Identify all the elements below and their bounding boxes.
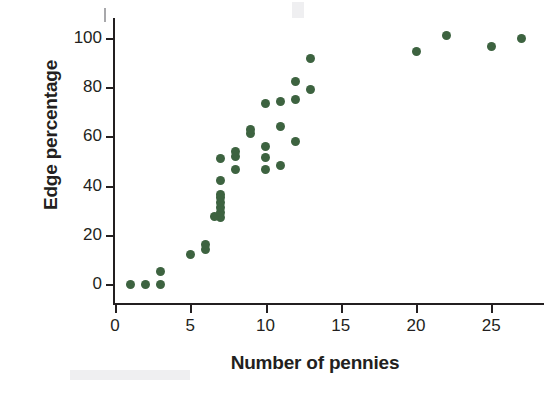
y-tick: [106, 38, 113, 40]
x-tick: [190, 305, 192, 313]
y-axis-line: [113, 18, 115, 304]
data-point: [291, 137, 300, 146]
data-point: [517, 34, 526, 43]
x-axis-line: [113, 303, 544, 305]
data-point: [291, 95, 300, 104]
y-tick-label: 100: [58, 28, 102, 48]
data-point: [216, 190, 225, 199]
data-point: [216, 154, 225, 163]
data-point: [442, 31, 451, 40]
y-tick-label: 80: [58, 77, 102, 97]
data-point: [156, 280, 165, 289]
scatter-chart: Edge percentage Number of pennies 020406…: [0, 0, 556, 395]
y-tick: [106, 87, 113, 89]
data-point: [261, 142, 270, 151]
x-tick-label: 10: [246, 316, 286, 336]
x-tick: [341, 305, 343, 313]
y-tick: [106, 235, 113, 237]
data-point: [487, 42, 496, 51]
plot-area: 020406080100 0510152025: [0, 0, 556, 395]
data-point: [276, 122, 285, 131]
data-point: [306, 54, 315, 63]
data-point: [291, 77, 300, 86]
y-tick: [106, 284, 113, 286]
x-tick: [266, 305, 268, 313]
data-point: [276, 97, 285, 106]
data-point: [261, 165, 270, 174]
data-point: [306, 85, 315, 94]
y-tick: [106, 186, 113, 188]
data-point: [261, 153, 270, 162]
data-point: [261, 99, 270, 108]
data-point: [246, 125, 255, 134]
data-point: [231, 165, 240, 174]
data-point: [276, 161, 285, 170]
y-tick: [106, 136, 113, 138]
y-tick-label: 0: [58, 274, 102, 294]
data-point: [216, 176, 225, 185]
x-tick-label: 25: [471, 316, 511, 336]
y-tick-label: 20: [58, 225, 102, 245]
data-point: [412, 47, 421, 56]
x-tick-label: 20: [396, 316, 436, 336]
y-tick-label: 40: [58, 176, 102, 196]
data-point: [141, 280, 150, 289]
data-point: [156, 267, 165, 276]
x-tick: [115, 305, 117, 313]
data-point: [186, 250, 195, 259]
x-tick-label: 0: [95, 316, 135, 336]
data-point: [201, 240, 210, 249]
x-tick: [491, 305, 493, 313]
x-tick: [416, 305, 418, 313]
data-point: [231, 147, 240, 156]
x-tick-label: 5: [170, 316, 210, 336]
data-point: [126, 280, 135, 289]
x-tick-label: 15: [321, 316, 361, 336]
y-tick-label: 60: [58, 126, 102, 146]
